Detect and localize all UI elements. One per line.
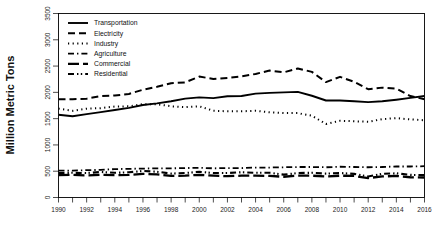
x-tick-label: 1992 bbox=[79, 206, 94, 213]
x-tick-label: 2000 bbox=[192, 206, 207, 213]
legend-label-transportation: Transportation bbox=[94, 19, 138, 27]
x-tick-label: 1996 bbox=[136, 206, 151, 213]
y-tick-label: 3000 bbox=[44, 32, 51, 47]
x-tick-label: 2006 bbox=[276, 206, 291, 213]
y-tick-label: 2000 bbox=[44, 85, 51, 100]
x-tick-label: 2012 bbox=[361, 206, 376, 213]
x-tick-label: 1994 bbox=[108, 206, 123, 213]
legend-label-electricity: Electricity bbox=[94, 30, 124, 38]
x-tick-label: 2002 bbox=[220, 206, 235, 213]
chart-container: Million Metric Tons 05001000150020002500… bbox=[0, 0, 441, 230]
x-tick-label: 1998 bbox=[164, 206, 179, 213]
y-tick-label: 3500 bbox=[44, 6, 51, 21]
y-tick-label: 0 bbox=[44, 195, 51, 199]
line-chart: Million Metric Tons 05001000150020002500… bbox=[0, 0, 441, 230]
y-tick-label: 500 bbox=[44, 165, 51, 176]
x-tick-label: 2008 bbox=[305, 206, 320, 213]
legend-label-industry: Industry bbox=[94, 40, 119, 48]
legend-label-residential: Residential bbox=[94, 70, 128, 77]
x-tick-label: 1990 bbox=[51, 206, 66, 213]
x-tick-label: 2010 bbox=[333, 206, 348, 213]
legend-label-commercial: Commercial bbox=[94, 60, 131, 67]
x-tick-label: 2016 bbox=[417, 206, 432, 213]
y-tick-label: 2500 bbox=[44, 58, 51, 73]
x-tick-label: 2004 bbox=[248, 206, 263, 213]
y-axis-title: Million Metric Tons bbox=[4, 56, 16, 155]
y-tick-label: 1000 bbox=[44, 137, 51, 152]
legend-label-agriculture: Agriculture bbox=[94, 50, 127, 58]
x-tick-label: 2014 bbox=[389, 206, 404, 213]
y-tick-label: 1500 bbox=[44, 111, 51, 126]
